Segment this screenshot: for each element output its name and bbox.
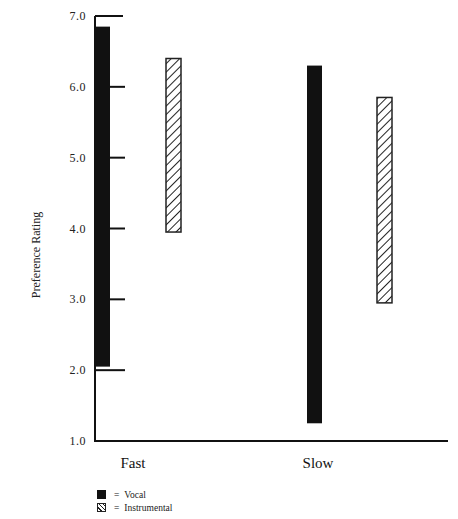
y-tick-label: 5.0 bbox=[70, 151, 87, 165]
bar-instrumental-slow bbox=[377, 97, 392, 302]
y-tick-label: 4.0 bbox=[70, 222, 87, 236]
bar-vocal-slow bbox=[307, 66, 322, 424]
bars bbox=[95, 27, 392, 424]
category-labels: FastSlow bbox=[120, 455, 333, 471]
y-tick-label: 6.0 bbox=[70, 80, 87, 94]
legend-equals: = bbox=[114, 503, 119, 513]
hatched-swatch-icon bbox=[97, 503, 106, 512]
axes bbox=[94, 16, 448, 441]
legend-equals: = bbox=[114, 490, 119, 500]
solid-swatch-icon bbox=[97, 490, 106, 499]
legend: = Vocal = Instrumental bbox=[97, 488, 172, 514]
x-category-label: Fast bbox=[120, 455, 146, 471]
y-tick-label: 2.0 bbox=[70, 363, 87, 377]
legend-item-vocal: = Vocal bbox=[97, 488, 172, 501]
range-bar-chart: Preference Rating 1.02.03.04.05.06.07.0 … bbox=[0, 0, 458, 519]
bar-instrumental-fast bbox=[166, 59, 181, 233]
bar-vocal-fast bbox=[95, 27, 110, 367]
y-tick-label: 7.0 bbox=[70, 9, 87, 23]
x-category-label: Slow bbox=[303, 455, 334, 471]
y-axis-label: Preference Rating bbox=[29, 212, 43, 298]
legend-label: Vocal bbox=[124, 490, 145, 500]
y-tick-label: 3.0 bbox=[70, 292, 87, 306]
legend-item-instrumental: = Instrumental bbox=[97, 501, 172, 514]
legend-label: Instrumental bbox=[124, 503, 172, 513]
y-tick-label: 1.0 bbox=[70, 434, 87, 448]
